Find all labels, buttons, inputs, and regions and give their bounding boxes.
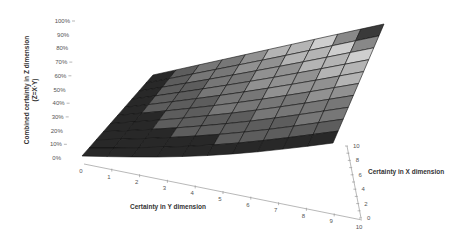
z-tick-label: 20% — [51, 128, 64, 134]
y-tick-label: 7 — [274, 207, 278, 213]
z-tick-label: 70% — [55, 59, 68, 65]
y-tick-label: 4 — [191, 190, 195, 196]
y-tick-label: 8 — [302, 213, 306, 219]
z-axis-subtitle: (Z=X·Y) — [31, 79, 39, 102]
z-tick-label: 0% — [52, 155, 61, 161]
x-tick-label: 4 — [361, 186, 365, 192]
z-tick-label: 40% — [53, 100, 66, 106]
surface-mesh — [82, 24, 384, 157]
x-tick-label: 6 — [359, 172, 363, 178]
y-tick-label: 3 — [163, 185, 167, 191]
z-tick-label: 10% — [50, 141, 63, 147]
z-tick-label: 60% — [54, 73, 67, 79]
y-tick-label: 2 — [135, 179, 139, 185]
z-tick-label: 30% — [52, 114, 65, 120]
x-tick-label: 0 — [367, 215, 371, 221]
x-tick-label: 2 — [364, 201, 368, 207]
surface-chart: 0%10%20%30%40%50%60%70%80%90%100%0123456… — [0, 0, 463, 250]
y-tick-label: 9 — [330, 218, 334, 224]
z-tick-label: 80% — [56, 45, 69, 51]
x-axis-title: Certainty in X dimension — [368, 168, 444, 176]
z-tick-label: 50% — [53, 87, 66, 93]
z-tick-label: 100% — [55, 18, 71, 24]
x-tick-label: 8 — [356, 157, 360, 163]
y-tick-label: 1 — [107, 174, 111, 180]
y-axis-title: Certainty in Y dimension — [130, 203, 206, 211]
y-tick-label: 6 — [246, 202, 250, 208]
y-tick-label: 0 — [79, 168, 83, 174]
y-tick-label: 10 — [356, 224, 363, 230]
z-tick-label: 90% — [57, 32, 70, 38]
y-tick-label: 5 — [218, 196, 222, 202]
x-tick-label: 10 — [353, 143, 360, 149]
z-axis-title: Combined certainty in Z dimension — [23, 36, 31, 144]
